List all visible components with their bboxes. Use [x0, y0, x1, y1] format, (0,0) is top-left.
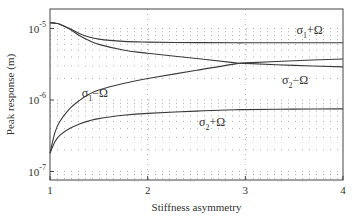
curve-label: σ2+Ω: [199, 115, 225, 132]
y-tick-label: 10-5: [28, 20, 46, 35]
curve-labels: σ1+Ωσ2−Ωσ1−Ωσ2+Ω: [82, 23, 323, 131]
curve-label: σ1−Ω: [82, 86, 108, 103]
x-axis-label: Stiffness asymmetry: [152, 201, 242, 213]
y-tick-label: 10-6: [28, 91, 46, 106]
x-tick-label: 1: [47, 184, 53, 196]
x-tick-label: 3: [243, 184, 249, 196]
curve-label: σ1+Ω: [297, 23, 323, 40]
y-tick-label: 10-7: [28, 163, 46, 178]
x-tick-label: 2: [145, 184, 151, 196]
curve-4: [50, 109, 343, 153]
curve-label: σ2−Ω: [282, 73, 308, 90]
y-axis-label: Peak response (m): [4, 54, 17, 136]
x-axis-ticks: 1234: [47, 176, 346, 196]
peak-response-chart: 1234 10-710-610-5 σ1+Ωσ2−Ωσ1−Ωσ2+Ω Stiff…: [0, 0, 354, 219]
x-tick-label: 4: [340, 184, 346, 196]
